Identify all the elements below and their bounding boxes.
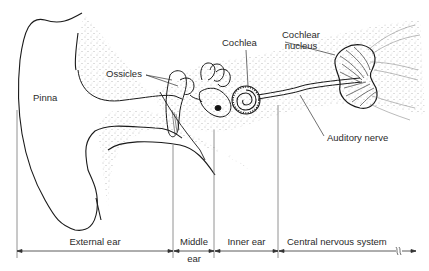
region-label-inner-ear: Inner ear <box>215 236 278 247</box>
region-label-middle-ear-2: ear <box>174 253 214 264</box>
label-cochlea: Cochlea <box>222 37 257 48</box>
label-auditory-nerve: Auditory nerve <box>327 132 388 143</box>
label-cochlear-nucleus-1: Cochlear <box>275 29 327 40</box>
region-arrows <box>17 247 416 255</box>
label-cochlear-nucleus-2: nucleus <box>275 40 327 51</box>
region-label-cns: Central nervous system <box>287 236 387 247</box>
label-pinna: Pinna <box>33 92 57 103</box>
label-ossicles: Ossicles <box>106 68 142 79</box>
region-label-external-ear: External ear <box>40 236 150 247</box>
ear-anatomy-diagram: Pinna Ossicles Cochlea Cochlear nucleus … <box>0 0 429 271</box>
region-label-middle-ear-1: Middle <box>174 236 214 247</box>
